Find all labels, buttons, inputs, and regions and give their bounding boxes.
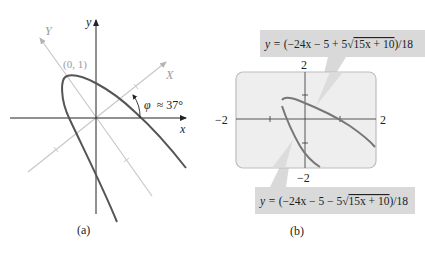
- rotated-x-label: X: [165, 68, 174, 82]
- upper-equation: y = (−24x − 5 + 5√15x + 10)/18: [264, 38, 413, 51]
- y-axis-label: y: [85, 15, 92, 29]
- angle-label: φ ≈ 37°: [144, 98, 183, 112]
- lower-equation: y = (−24x − 5 − 5√15x + 10)/18: [259, 195, 408, 208]
- x-max-label: 2: [380, 113, 386, 127]
- rotated-y-tick: [124, 158, 129, 162]
- rotated-y-label: Y: [45, 24, 53, 38]
- vertex-label: (0, 1): [63, 58, 87, 71]
- figure-canvas: y x Y X (0, 1) φ ≈ 37° (a) 2 −2: [0, 0, 425, 254]
- panel-b: 2 −2 −2 2 y = (−24x − 5 + 5√15x + 10)/18…: [215, 30, 425, 238]
- y-min-label: −2: [297, 171, 310, 185]
- y-max-label: 2: [301, 58, 307, 72]
- phi-symbol: φ: [144, 98, 151, 112]
- rotated-x-axis: [28, 62, 166, 172]
- radicand: 15x + 10: [348, 195, 389, 207]
- panel-a-caption: (a): [77, 223, 90, 237]
- x-min-label: −2: [215, 113, 228, 127]
- panel-b-caption: (b): [290, 224, 304, 238]
- x-axis-label: x: [179, 122, 186, 136]
- radicand: 15x + 10: [353, 38, 394, 50]
- panel-a: y x Y X (0, 1) φ ≈ 37° (a): [10, 15, 186, 237]
- angle-value: ≈ 37°: [157, 98, 184, 112]
